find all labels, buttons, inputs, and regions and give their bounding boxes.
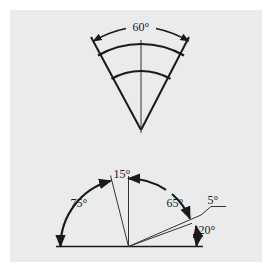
sector-left-side	[91, 37, 141, 130]
dimension-arc-15-65	[129, 179, 167, 190]
top-sector-figure: 60°	[91, 20, 189, 133]
bottom-semicircle-figure: 75° 15° 65° 5° 20°	[56, 167, 226, 247]
dimension-arc-left	[94, 28, 127, 41]
dimension-arc-20	[196, 226, 197, 246]
angle-label-65: 65°	[167, 196, 184, 210]
angle-label-60: 60°	[133, 20, 150, 34]
sector-right-side	[141, 37, 189, 130]
angle-label-20: 20°	[199, 223, 216, 237]
angle-label-75: 75°	[71, 196, 88, 210]
angle-label-5: 5°	[208, 193, 219, 207]
angle-dimension-diagram: 60° 75° 15° 65° 5° 20°	[0, 0, 271, 271]
dimension-arc-right	[156, 28, 189, 41]
leader-5-deg	[201, 207, 211, 216]
dimension-arc-75	[60, 181, 110, 247]
line-25-deg	[129, 215, 202, 247]
line-105-deg	[111, 176, 129, 247]
angle-label-15: 15°	[114, 167, 131, 181]
line-20-deg	[129, 223, 193, 246]
